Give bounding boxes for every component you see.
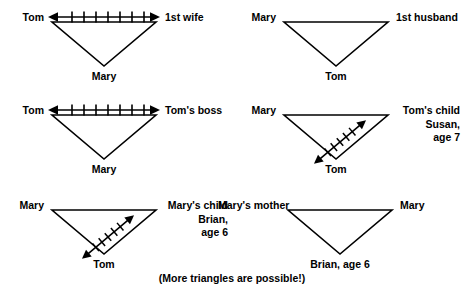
panel-5-top-right-label-line3: age 6 <box>134 226 228 240</box>
panel-5-top-right-label-line2: Brian, <box>134 213 228 227</box>
triangle-panel-6 <box>284 206 396 258</box>
panel-4-top-right-label-block: Tom's child Susan, age 7 <box>366 104 460 145</box>
panel-4-top-right-label-line2: Susan, <box>366 118 460 132</box>
double-arrow-hatched-icon <box>48 10 160 24</box>
panel-5-bottom-label: Tom <box>64 258 144 271</box>
double-arrow-hatched-icon <box>48 103 160 117</box>
triangle-panel-1 <box>48 18 160 70</box>
triangle-shape-6 <box>284 206 396 258</box>
panel-1-bottom-label: Mary <box>64 70 144 83</box>
panel-6-bottom-label: Brian, age 6 <box>292 258 388 271</box>
triangle-panel-3 <box>48 111 160 163</box>
panel-2-top-left-label: Mary <box>232 11 276 24</box>
conflict-arrow-3 <box>48 103 160 117</box>
panel-4-top-right-label-line1: Tom's child <box>366 104 460 118</box>
panel-3-bottom-label: Mary <box>64 163 144 176</box>
panel-3-top-left-label: Tom <box>0 104 44 117</box>
triangles-figure: Tom 1st wife Mary Mary 1st husband Tom <box>0 0 464 293</box>
panel-6-top-left-label: Mary's mother <box>218 199 282 212</box>
panel-5-top-left-label: Mary <box>0 199 44 212</box>
triangle-shape-2 <box>280 18 392 70</box>
conflict-arrow-1 <box>48 10 160 24</box>
panel-3-top-right-label: Tom's boss <box>165 104 222 117</box>
panel-1-top-right-label: 1st wife <box>165 11 204 24</box>
panel-5-top-right-label-line1: Mary's child <box>134 199 228 213</box>
triangle-shape-1 <box>48 18 160 70</box>
panel-4-top-right-label-line3: age 7 <box>366 131 460 145</box>
panel-5-top-right-label-block: Mary's child Brian, age 6 <box>134 199 228 240</box>
triangle-panel-2 <box>280 18 392 70</box>
panel-2-bottom-label: Tom <box>296 70 376 83</box>
figure-caption: (More triangles are possible!) <box>0 272 464 284</box>
panel-2-top-right-label: 1st husband <box>396 11 458 24</box>
panel-1-top-left-label: Tom <box>0 11 44 24</box>
triangle-shape-3 <box>48 111 160 163</box>
panel-6-top-right-label: Mary <box>400 199 425 212</box>
panel-4-top-left-label: Mary <box>232 104 276 117</box>
panel-4-bottom-label: Tom <box>296 163 376 176</box>
